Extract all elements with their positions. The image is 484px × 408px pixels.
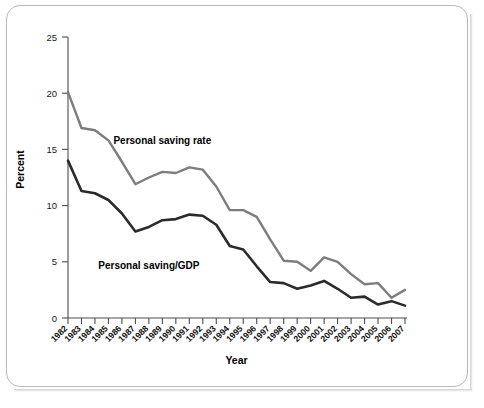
series-line-personal-saving-gdp — [68, 161, 405, 306]
chart-svg: 0510152025 19821983198419851986198719881… — [0, 0, 484, 408]
series-annotation-personal-saving-gdp: Personal saving/GDP — [98, 260, 199, 271]
x-axis-tick-label: 2007 — [386, 323, 407, 344]
y-axis-tick-label: 25 — [46, 32, 57, 43]
series-annotation-personal-saving-rate: Personal saving rate — [113, 135, 211, 146]
y-axis-tick-label: 20 — [46, 88, 57, 99]
y-axis-tick-label: 0 — [52, 313, 57, 324]
y-axis-tick-label: 10 — [46, 200, 57, 211]
line-chart: 0510152025 19821983198419851986198719881… — [0, 0, 484, 408]
x-axis-title: Year — [225, 354, 247, 366]
y-axis-tick-label: 5 — [52, 256, 57, 267]
x-axis: 1982198319841985198619871988198919901991… — [49, 318, 407, 344]
y-axis-tick-label: 15 — [46, 144, 57, 155]
chart-series-group — [68, 92, 405, 306]
y-axis-title: Percent — [14, 150, 26, 189]
y-axis: 0510152025 — [46, 32, 68, 324]
chart-annotations: Personal saving ratePersonal saving/GDP — [98, 135, 211, 271]
